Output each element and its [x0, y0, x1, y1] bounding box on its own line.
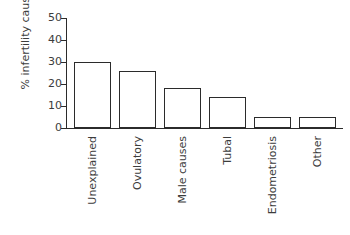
y-tick-label: 20 — [48, 77, 62, 90]
y-tick-label: 10 — [48, 99, 62, 112]
x-tick-label: Male causes — [176, 136, 190, 204]
x-axis-line — [66, 128, 343, 129]
x-tick-label: Tubal — [221, 136, 235, 165]
y-axis-title: % infertility causes — [19, 0, 33, 107]
bar — [119, 71, 156, 128]
bar — [74, 62, 111, 128]
bar — [209, 97, 246, 128]
bar — [164, 88, 201, 128]
x-tick-label: Endometriosis — [266, 136, 280, 214]
bar — [299, 117, 336, 128]
y-tick-label: 30 — [48, 55, 62, 68]
y-axis-line — [66, 18, 67, 129]
x-tick-label: Unexplained — [86, 136, 100, 205]
plot-area: 01020304050 UnexplainedOvulatoryMale cau… — [66, 18, 343, 128]
y-tick-label: 0 — [55, 121, 62, 134]
x-tick-label: Other — [311, 136, 325, 167]
y-tick-label: 40 — [48, 33, 62, 46]
x-tick-label: Ovulatory — [131, 136, 145, 190]
bar-chart: % infertility causes 01020304050 Unexpla… — [0, 0, 350, 235]
bar — [254, 117, 291, 128]
y-tick-label: 50 — [48, 11, 62, 24]
